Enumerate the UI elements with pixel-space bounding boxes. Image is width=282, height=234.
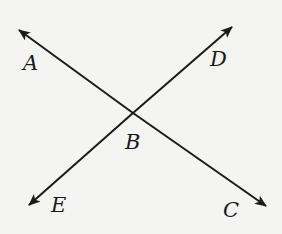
label-C: C — [223, 198, 239, 222]
ray-BC — [133, 113, 266, 206]
ray-BE — [29, 113, 133, 205]
label-B: B — [124, 130, 140, 154]
label-D: D — [209, 47, 227, 71]
label-E: E — [50, 193, 66, 217]
intersecting-lines-diagram: A D B E C — [0, 0, 282, 234]
label-A: A — [21, 51, 38, 75]
